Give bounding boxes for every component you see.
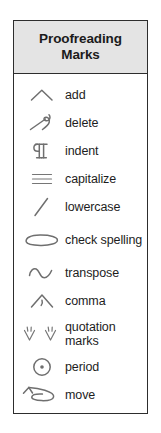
caret-insert-mark-icon [19,81,65,109]
double-quote-caret-mark-icon [19,315,65,353]
list-item: transpose [14,259,147,287]
list-item-label: capitalize [65,172,143,187]
list-item-label: lowercase [65,200,143,215]
list-item: delete [14,109,147,137]
list-item: quotation marks [14,315,147,353]
list-item: indent [14,137,147,165]
list-item-label: check spelling [65,233,143,248]
card-header: Proofreading Marks [14,21,147,74]
list-item: lowercase [14,193,147,221]
marks-list: add delete [14,74,147,413]
list-item-label: indent [65,144,143,159]
delete-loop-mark-icon [19,109,65,137]
list-item-label: quotation marks [65,320,143,349]
list-item: move [14,381,147,409]
slash-mark-icon [19,193,65,221]
page-title: Proofreading Marks [14,31,147,64]
list-item-label: comma [65,294,143,309]
caret-comma-mark-icon [19,287,65,315]
triple-underline-mark-icon [19,165,65,193]
list-item-label: add [65,88,143,103]
list-item: check spelling [14,221,147,259]
arrow-loop-move-mark-icon [19,381,65,409]
list-item-label: period [65,360,143,375]
list-item-label: delete [65,116,143,131]
circled-dot-mark-icon [19,353,65,381]
proofreading-marks-card: Proofreading Marks add delete [13,20,148,414]
list-item: capitalize [14,165,147,193]
list-item: comma [14,287,147,315]
pilcrow-indent-mark-icon [19,137,65,165]
tilde-wave-mark-icon [19,259,65,287]
list-item-label: move [65,388,143,403]
list-item-label: transpose [65,266,143,281]
list-item: add [14,81,147,109]
ellipse-circle-mark-icon [19,221,65,259]
list-item: period [14,353,147,381]
